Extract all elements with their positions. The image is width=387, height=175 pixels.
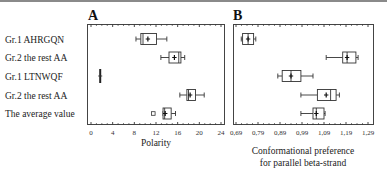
- row-label: Gr.2 the rest AA: [5, 53, 67, 63]
- boxplot-row: [301, 108, 325, 119]
- panel-a-x-label: Polarity: [141, 138, 171, 148]
- boxplot-row: [180, 90, 204, 101]
- boxplot-row: [241, 34, 256, 45]
- x-tick-label: 16: [174, 129, 182, 137]
- x-tick-label: 8: [133, 129, 137, 137]
- panel-b: B 0,690,790,890,991,091,191,29 Conformat…: [230, 8, 375, 168]
- panel-a: A 04812162024 Polarity: [88, 8, 226, 148]
- panel-a-boxes: [98, 34, 204, 120]
- x-tick-label: 24: [218, 129, 226, 137]
- boxplot-row: [136, 34, 167, 45]
- panel-b-title: B: [233, 8, 242, 23]
- panel-b-x-label-line2: for parallel beta-strand: [260, 158, 347, 168]
- boxplot-figure: Gr.1 AHRGQN Gr.2 the rest AA Gr.1 LTNWQF…: [0, 0, 387, 175]
- boxplot-row: [98, 69, 102, 83]
- x-tick-label: 12: [153, 129, 161, 137]
- row-label: Gr.1 AHRGQN: [5, 35, 64, 45]
- boxplot-row: [326, 52, 358, 63]
- x-tick-label: 0,99: [296, 129, 309, 137]
- outlier-marker: [151, 112, 155, 116]
- panel-a-x-ticks: 04812162024: [89, 25, 225, 137]
- row-label: Gr.2 the rest AA: [5, 91, 67, 101]
- x-tick-label: 1,29: [362, 129, 375, 137]
- panel-a-title: A: [88, 8, 99, 23]
- row-label: Gr.1 LTNWQF: [5, 72, 63, 82]
- x-tick-label: 0: [89, 129, 93, 137]
- panel-b-boxes: [241, 34, 358, 120]
- panel-b-x-label-line1: Conformational preference: [252, 146, 355, 156]
- x-tick-label: 1,09: [318, 129, 331, 137]
- boxplot-row: [151, 108, 175, 119]
- boxplot-row: [161, 52, 185, 63]
- iqr-box: [343, 52, 356, 63]
- x-tick-label: 0,79: [252, 129, 265, 137]
- boxplot-row: [278, 71, 313, 82]
- x-tick-label: 20: [196, 129, 204, 137]
- panel-b-frame: [234, 25, 374, 125]
- x-tick-label: 0,69: [230, 129, 243, 137]
- row-labels: Gr.1 AHRGQN Gr.2 the rest AA Gr.1 LTNWQF…: [5, 35, 75, 120]
- x-tick-label: 1,19: [340, 129, 353, 137]
- boxplot-row: [301, 90, 340, 101]
- row-label: The average value: [5, 109, 75, 119]
- x-tick-label: 4: [111, 129, 115, 137]
- x-tick-label: 0,89: [274, 129, 287, 137]
